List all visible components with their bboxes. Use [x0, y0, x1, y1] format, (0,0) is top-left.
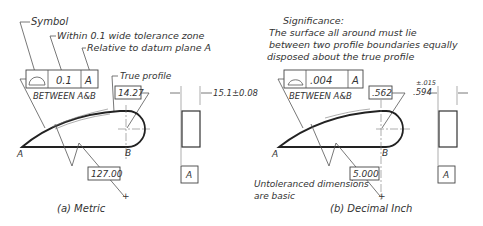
callout-datum: Relative to datum plane A [87, 42, 211, 53]
feature-control-frame-inch: .004 A [284, 70, 363, 88]
fcf-tolerance: .004 [310, 75, 332, 86]
thickness-tolerance: ±.015 [416, 79, 436, 87]
leader-tolerance [50, 36, 62, 72]
note-line-2: are basic [254, 191, 295, 201]
leader-symbol [20, 22, 35, 72]
side-view-inch: ±.015 .594 A [413, 79, 468, 183]
point-a: A [16, 149, 23, 159]
svg-text:+: + [378, 191, 386, 201]
significance-line-3: disposed about the true profile [267, 51, 414, 62]
svg-text:+: + [122, 191, 130, 201]
thickness-value: 15.1±0.08 [213, 88, 259, 98]
note-line-1: Untoleranced dimensions [254, 179, 369, 189]
significance-title: Significance: [283, 15, 344, 26]
airfoil-profile-metric [22, 111, 145, 147]
airfoil-profile-inch [279, 111, 403, 147]
radius-basic-value: 14.27 [118, 88, 144, 98]
thickness-value: .594 [413, 87, 432, 97]
length-basic-value: 5.000 [353, 169, 379, 179]
feature-control-frame-metric: 0.1 A [26, 70, 98, 88]
fcf-note: BETWEEN A&B [33, 91, 96, 101]
radius-basic-value: .562 [372, 88, 392, 98]
significance-line-1: The surface all around must lie [269, 27, 417, 38]
datum-label: A [442, 170, 449, 180]
side-view-metric: 15.1±0.08 A [170, 86, 259, 183]
inch-view: Significance: The surface all around mus… [254, 15, 468, 214]
point-a: A [271, 149, 278, 159]
callout-tolerance-zone: Within 0.1 wide tolerance zone [57, 30, 205, 41]
point-b: B [382, 148, 388, 158]
profile-tolerance-drawing: Symbol Within 0.1 wide tolerance zone Re… [0, 0, 483, 226]
datum-label: A [185, 170, 192, 180]
caption-inch: (b) Decimal Inch [330, 203, 412, 214]
length-basic-value: 127.00 [91, 169, 123, 179]
fcf-tolerance: 0.1 [56, 75, 72, 86]
significance-line-2: between two profile boundaries equally [269, 39, 458, 50]
fcf-note: BETWEEN A&B [289, 91, 352, 101]
point-b: B [125, 148, 131, 158]
callout-true-profile: True profile [120, 71, 172, 81]
metric-view: Symbol Within 0.1 wide tolerance zone Re… [16, 16, 259, 214]
caption-metric: (a) Metric [57, 203, 106, 214]
callout-symbol: Symbol [31, 16, 68, 27]
fcf-datum: A [84, 75, 92, 86]
fcf-datum: A [351, 75, 359, 86]
